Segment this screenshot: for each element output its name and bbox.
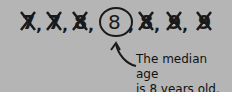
x-mark-icon	[165, 10, 183, 32]
x-mark-icon	[19, 10, 37, 32]
separator: ,	[128, 16, 134, 35]
x-mark-icon	[195, 10, 213, 32]
median-value: 8	[108, 12, 121, 32]
median-diagram: 7 , 7 , 8 , 8 , 8 , 9 , 9 The median age…	[0, 0, 232, 92]
x-mark-icon	[45, 10, 63, 32]
caption-line-2: is 8 years old.	[136, 82, 232, 92]
caption: The median age is 8 years old.	[136, 52, 232, 92]
caption-line-1: The median age	[136, 52, 232, 82]
x-mark-icon	[71, 10, 89, 32]
x-mark-icon	[137, 10, 155, 32]
